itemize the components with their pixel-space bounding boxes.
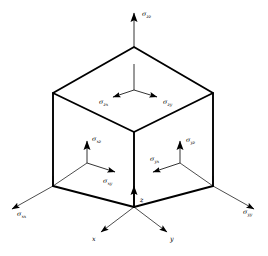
sigma-zy-arrow xyxy=(134,90,157,97)
sigma-xz-label: σxz xyxy=(92,135,102,144)
y-axis-label: y xyxy=(169,235,174,243)
x-axis-arrow xyxy=(101,207,134,232)
cube-top-face xyxy=(53,47,213,132)
diagram-canvas: σzz σzx σzy σxz σxy σxx σyz σyx σyy x y … xyxy=(0,0,268,256)
z-axis-label: z xyxy=(139,196,144,204)
sigma-xx-stem xyxy=(53,163,87,186)
sigma-zx-arrow xyxy=(113,90,134,97)
sigma-yx-arrow xyxy=(153,163,180,172)
sigma-xy-arrow xyxy=(87,163,115,172)
sigma-yx-label: σyx xyxy=(150,155,160,164)
sigma-xy-label: σxy xyxy=(103,177,113,186)
sigma-yy-arrow xyxy=(213,186,254,209)
sigma-yy-stem xyxy=(180,163,213,186)
right-face-stresses xyxy=(153,141,213,186)
face-normal-axes xyxy=(12,176,254,209)
x-axis-label: x xyxy=(92,235,96,243)
sigma-zx-label: σzx xyxy=(99,98,109,107)
sigma-yy-label: σyy xyxy=(243,208,253,217)
stress-tensor-figure: σzz σzx σzy σxz σxy σxx σyz σyx σyy x y … xyxy=(0,0,268,256)
cube-edge-bottom-left xyxy=(53,186,134,207)
cube-edge-bottom-right xyxy=(134,186,213,207)
sigma-zy-label: σzy xyxy=(163,98,173,107)
sigma-yz-label: σyz xyxy=(186,136,196,145)
sigma-xx-label: σxx xyxy=(17,210,27,219)
y-axis-arrow xyxy=(134,207,167,232)
axis-labels: x y z xyxy=(92,196,174,243)
cube-wireframe xyxy=(53,47,213,207)
sigma-zz-label: σzz xyxy=(142,10,152,19)
sigma-xx-arrow xyxy=(12,186,53,209)
